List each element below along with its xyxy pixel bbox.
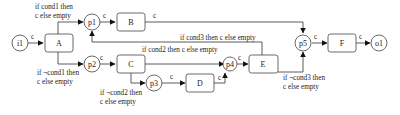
edge-label-i1-a: c [31, 33, 34, 41]
edge-label-p5-f: c [314, 33, 317, 41]
place-p5: p5 [295, 35, 311, 51]
svg-text:C: C [128, 60, 133, 69]
place-p2: p2 [84, 56, 100, 72]
edge-label-a-p2-line2: c else empty [37, 78, 73, 86]
svg-text:E: E [261, 60, 266, 69]
transition-a: A [45, 34, 73, 52]
svg-text:o1: o1 [375, 39, 383, 48]
svg-text:D: D [197, 79, 203, 88]
place-o1: o1 [371, 35, 387, 51]
edge-label-a-p2-line1: if ¬cond1 then [37, 69, 79, 77]
svg-text:p5: p5 [299, 39, 307, 48]
edge-label-b-p5: c [153, 12, 156, 20]
transition-b: B [117, 13, 145, 31]
svg-text:F: F [340, 39, 345, 48]
svg-text:i1: i1 [17, 39, 23, 48]
place-p4: p4 [223, 57, 237, 71]
svg-text:p3: p3 [150, 79, 158, 88]
edge-b-p5 [145, 22, 303, 33]
edge-label-f-o1: c [359, 33, 362, 41]
edge-label-c-p3-line1: if ¬cond2 then [100, 89, 142, 97]
edge-label-p4-e: c [238, 54, 241, 62]
edge-e-p5 [278, 52, 303, 72]
svg-text:p2: p2 [88, 60, 96, 69]
svg-text:p1: p1 [88, 18, 96, 27]
svg-text:B: B [128, 18, 133, 27]
edge-label-e-p1: if cond3 then c else empty [180, 34, 256, 42]
edge-a-p1 [58, 22, 83, 35]
edge-c-p3 [131, 72, 145, 83]
edge-label-a-p1-line1: if cond1 then [35, 3, 73, 11]
edge-label-p1-b: c [103, 12, 106, 20]
place-i1: i1 [12, 35, 28, 51]
transition-f: F [328, 34, 356, 52]
edge-label-p2-c: c [100, 54, 103, 62]
transition-e: E [249, 55, 278, 73]
edge-label-e-p5-line2: c else empty [283, 83, 319, 91]
edge-label-c-p3-line2: c else empty [100, 98, 136, 106]
edge-label-d-p4: c [218, 74, 221, 82]
svg-text:A: A [56, 39, 62, 48]
edge-label-c-p4: if cond2 then c else empty [142, 46, 218, 54]
transition-c: C [117, 55, 145, 73]
transition-d: D [186, 74, 214, 92]
place-p3: p3 [146, 75, 162, 91]
place-p1: p1 [84, 14, 100, 30]
edge-label-p3-d: c [170, 73, 173, 81]
edge-label-e-p5-line1: if ¬cond3 then [283, 74, 325, 82]
workflow-diagram: c if cond1 then c else empty if ¬cond1 t… [0, 0, 400, 115]
edge-a-p2 [58, 51, 83, 64]
svg-text:p4: p4 [226, 60, 234, 69]
edge-label-a-p1-line2: c else empty [35, 12, 71, 20]
